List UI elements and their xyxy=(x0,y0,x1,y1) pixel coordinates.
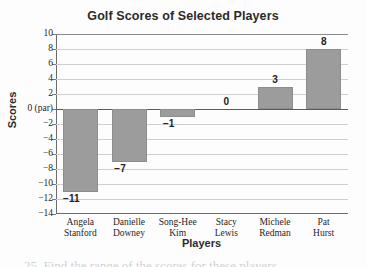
gridline xyxy=(56,154,348,155)
y-axis-tick-label: −4 xyxy=(43,133,53,143)
y-axis-tick-label: 2 xyxy=(48,88,53,98)
y-axis-tick-label: 4 xyxy=(48,73,53,83)
category-label-line: Pat xyxy=(294,217,354,228)
y-axis-tick-label: −10 xyxy=(38,178,53,188)
y-axis-tick-label: 10 xyxy=(44,28,54,38)
bar xyxy=(258,87,293,110)
y-axis-tick-label: 6 xyxy=(48,58,53,68)
y-axis-tick-label: −8 xyxy=(43,163,53,173)
bar-value-label: −1 xyxy=(136,118,201,129)
bar-value-label: 3 xyxy=(243,74,308,85)
bar-value-label: 8 xyxy=(291,36,356,47)
gridline xyxy=(56,184,348,185)
bar xyxy=(306,49,341,109)
zero-line xyxy=(56,109,348,110)
bar-value-label: 0 xyxy=(194,96,259,107)
y-axis-tick-label: −2 xyxy=(43,118,53,128)
chart-page: Golf Scores of Selected Players Scores 1… xyxy=(0,0,366,267)
x-axis-title: Players xyxy=(55,237,348,249)
y-axis-tick-label: 0 (par) xyxy=(27,103,53,113)
gridline xyxy=(56,124,348,125)
y-axis-tick-label: 8 xyxy=(48,43,53,53)
clipped-footer-text: 25. Find the range of the scores for the… xyxy=(0,258,366,267)
gridline xyxy=(56,139,348,140)
gridline xyxy=(56,64,348,65)
gridline xyxy=(56,49,348,50)
gridline xyxy=(56,94,348,95)
plot-top-border xyxy=(56,34,348,35)
y-axis-tick-label: −6 xyxy=(43,148,53,158)
footer-text: 25. Find the range of the scores for the… xyxy=(0,258,366,267)
bar-value-label: −11 xyxy=(39,193,104,204)
bar-value-label: −7 xyxy=(88,163,153,174)
x-axis-category-label: PatHurst xyxy=(294,217,354,238)
chart-title: Golf Scores of Selected Players xyxy=(0,9,366,23)
plot-area xyxy=(56,34,348,214)
y-axis-title: Scores xyxy=(6,80,18,140)
bar xyxy=(63,109,98,192)
x-axis-line xyxy=(56,213,348,214)
bar xyxy=(160,109,195,117)
